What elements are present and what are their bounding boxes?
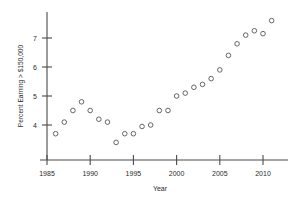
x-tick-label: 2000 (169, 170, 185, 177)
data-point (131, 131, 136, 136)
data-point (243, 33, 248, 38)
x-tick-label: 2005 (212, 170, 228, 177)
data-point (105, 120, 110, 125)
data-point (53, 131, 58, 136)
chart-canvas: 4567 198519901995200020052010 Year Perce… (0, 0, 294, 200)
x-axis-title: Year (153, 185, 168, 192)
y-axis: 4567 (33, 12, 52, 160)
data-point (157, 108, 162, 113)
x-tick-label: 1990 (82, 170, 98, 177)
data-point (88, 108, 93, 113)
data-point (114, 140, 119, 145)
data-point (166, 108, 171, 113)
data-point (261, 31, 266, 36)
data-point-group (53, 18, 274, 144)
data-point (71, 108, 76, 113)
plot-area: 4567 198519901995200020052010 Year Perce… (0, 0, 294, 200)
data-point (252, 28, 257, 33)
data-point (218, 68, 223, 73)
data-point (122, 131, 127, 136)
y-tick-label: 5 (33, 93, 37, 100)
x-tick-label: 1995 (126, 170, 142, 177)
y-axis-title: Percent Earning > $150,000 (17, 45, 25, 128)
data-point (183, 91, 188, 96)
data-point (235, 42, 240, 47)
data-point (62, 120, 67, 125)
data-point (148, 123, 153, 128)
y-tick-label: 6 (33, 64, 37, 71)
scatter-chart: 4567 198519901995200020052010 Year Perce… (0, 0, 294, 200)
data-point (200, 82, 205, 87)
y-tick-label: 7 (33, 35, 37, 42)
data-point (174, 94, 179, 99)
data-point (269, 18, 274, 23)
x-tick-group: 198519901995200020052010 (39, 155, 271, 177)
y-tick-label: 4 (33, 122, 37, 129)
x-tick-label: 2010 (255, 170, 271, 177)
data-point (79, 100, 84, 105)
data-point (140, 124, 145, 129)
x-tick-label: 1985 (39, 170, 55, 177)
x-axis: 198519901995200020052010 (39, 155, 288, 177)
data-point (226, 53, 231, 58)
y-tick-group: 4567 (33, 35, 52, 129)
data-point (209, 76, 214, 81)
data-point (97, 117, 102, 122)
data-point (192, 85, 197, 90)
